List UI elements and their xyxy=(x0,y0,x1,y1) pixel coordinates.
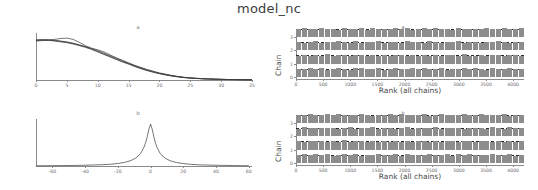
bottom-right-bar xyxy=(484,155,489,163)
top-right-bar xyxy=(399,55,404,64)
bottom-right-bar xyxy=(405,127,410,136)
top-left-x-tick-label: 30 xyxy=(218,83,224,88)
bottom-left-x-tick xyxy=(216,166,217,168)
bottom-right-bar xyxy=(450,128,455,136)
top-right-bar xyxy=(439,43,444,51)
bottom-right-bar xyxy=(479,114,484,123)
top-right-bar xyxy=(490,68,495,77)
top-right-bar xyxy=(456,69,461,77)
top-right-bar xyxy=(467,29,472,37)
bottom-right-bar xyxy=(302,142,307,150)
density-curve xyxy=(36,124,249,166)
top-right-bar xyxy=(496,29,501,37)
top-right-bar xyxy=(467,69,472,77)
bottom-right-bar xyxy=(479,128,484,136)
bottom-right-bar xyxy=(433,141,438,150)
density-curve xyxy=(36,38,252,80)
bottom-right-bar xyxy=(376,154,381,163)
top-left-x-tick-label: 5 xyxy=(65,83,68,88)
bottom-right-ytick-label: 2 xyxy=(287,134,293,139)
bottom-right-bar xyxy=(365,155,370,163)
bottom-left-x-tick-label: 40 xyxy=(213,169,219,174)
bottom-left-x-tick-label: -40 xyxy=(81,169,89,174)
top-left-x-tick-label: 0 xyxy=(35,83,38,88)
bottom-right-bar xyxy=(490,115,495,123)
top-right-bar xyxy=(462,29,467,37)
top-right-bar xyxy=(513,42,518,51)
top-right-bar xyxy=(496,41,501,50)
top-right-bar xyxy=(490,29,495,37)
bottom-right-ytick xyxy=(294,150,296,151)
bottom-right-bar xyxy=(513,156,518,163)
bottom-right-bar xyxy=(331,156,336,163)
density-curve xyxy=(36,40,252,80)
bottom-right-bar xyxy=(416,128,421,137)
top-right-bar xyxy=(496,55,501,64)
bottom-right-bar xyxy=(490,154,495,163)
bottom-right-bar xyxy=(382,128,387,136)
bottom-right-bar xyxy=(388,155,393,163)
bottom-right-bar xyxy=(313,115,318,123)
bottom-right-bar xyxy=(427,154,432,163)
bottom-right-bar xyxy=(427,128,432,136)
bottom-right-bar xyxy=(405,141,410,150)
bottom-right-bar xyxy=(359,114,364,123)
bottom-right-bar xyxy=(370,127,375,136)
top-right-bar xyxy=(513,55,518,64)
bottom-right-bar xyxy=(433,127,438,136)
top-right-bar xyxy=(376,41,381,50)
top-right-bar xyxy=(376,29,381,37)
bottom-right-bar xyxy=(325,128,330,136)
bottom-right-bar xyxy=(302,154,307,163)
top-right-bar xyxy=(382,55,387,64)
top-right-bar xyxy=(433,69,438,77)
bottom-right-bar xyxy=(296,155,301,163)
top-right-bar xyxy=(365,69,370,77)
top-right-bar xyxy=(416,42,421,50)
top-right-bar xyxy=(507,68,512,77)
bottom-right-bar xyxy=(484,129,489,136)
top-right-bar xyxy=(393,28,398,37)
top-left-x-tick xyxy=(252,80,253,82)
top-right-bar xyxy=(519,56,524,64)
panel-top-left-title: a xyxy=(14,24,262,30)
top-right-bar xyxy=(313,41,318,50)
bottom-right-bar xyxy=(439,129,444,136)
bottom-right-bar xyxy=(519,128,524,137)
bottom-right-bar xyxy=(502,142,507,150)
top-right-bar xyxy=(342,28,347,37)
bottom-right-bar xyxy=(353,154,358,163)
top-right-bar xyxy=(439,68,444,77)
top-right-bar xyxy=(359,55,364,64)
bottom-right-bar xyxy=(342,115,347,123)
top-right-bar xyxy=(348,56,353,64)
top-right-bar xyxy=(513,29,518,37)
bottom-right-bar xyxy=(359,128,364,137)
top-right-bar xyxy=(416,69,421,77)
top-right-bar xyxy=(479,69,484,77)
bottom-left-x-tick xyxy=(249,166,250,168)
top-right-bar xyxy=(370,42,375,50)
bottom-right-bar xyxy=(393,115,398,123)
top-left-x-tick xyxy=(67,80,68,82)
top-right-bar xyxy=(519,69,524,77)
top-right-bar xyxy=(353,29,358,37)
top-left-x-tick xyxy=(190,80,191,82)
top-right-bar xyxy=(473,29,478,38)
bottom-right-bar xyxy=(473,128,478,137)
bottom-right-bar xyxy=(313,141,318,149)
bottom-right-bar xyxy=(519,141,524,150)
top-right-bar xyxy=(342,69,347,77)
top-right-bar xyxy=(370,69,375,77)
top-right-bar xyxy=(519,28,524,37)
top-right-x-axis-label: Rank (all chains) xyxy=(296,86,524,95)
top-right-bar xyxy=(433,55,438,64)
top-right-bar xyxy=(388,69,393,77)
top-left-x-tick-label: 20 xyxy=(156,83,162,88)
top-right-bar xyxy=(456,41,461,50)
bottom-left-x-tick-label: -20 xyxy=(114,169,122,174)
bottom-right-bar xyxy=(416,141,421,149)
top-right-bar xyxy=(502,69,507,77)
top-right-bar xyxy=(445,42,450,51)
bottom-right-bar xyxy=(393,141,398,149)
